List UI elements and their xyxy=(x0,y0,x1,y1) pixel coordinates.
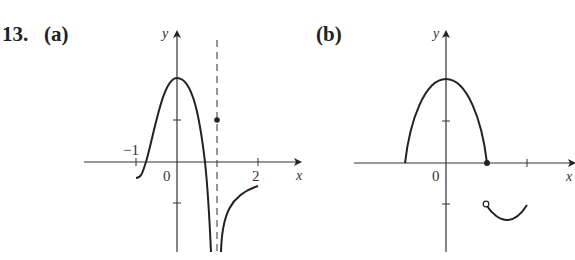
y-label-a: y xyxy=(160,26,169,41)
filled-endpoint xyxy=(484,160,490,166)
graph-b: y x 0 xyxy=(354,26,574,252)
origin-label-b: 0 xyxy=(432,168,440,184)
origin-label-a: 0 xyxy=(163,168,171,184)
tick-label-2: 2 xyxy=(252,168,260,184)
tick-label-neg1: −1 xyxy=(123,142,139,158)
figure: y x 0 −1 2 y x 0 xyxy=(0,0,575,260)
filled-point xyxy=(214,117,220,123)
x-label-a: x xyxy=(295,168,303,183)
graph-a: y x 0 −1 2 xyxy=(84,26,303,252)
x-label-b: x xyxy=(565,169,573,184)
y-label-b: y xyxy=(431,26,440,41)
curve-a-right xyxy=(221,186,258,252)
curve-b-cup xyxy=(487,205,527,220)
open-point xyxy=(483,201,489,207)
curve-a-left xyxy=(136,78,211,252)
